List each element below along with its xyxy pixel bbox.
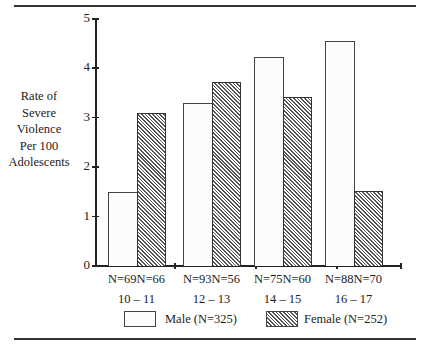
y-label-line: Severe [4, 105, 74, 122]
y-tick [92, 67, 99, 69]
legend-male-swatch [124, 311, 156, 327]
y-axis [95, 18, 97, 267]
y-label-line: Per 100 [4, 138, 74, 155]
top-rule [14, 5, 416, 7]
y-axis-label: Rate of Severe Violence Per 100 Adolesce… [4, 88, 74, 171]
y-tick [92, 265, 99, 267]
male-bar [108, 192, 138, 266]
category-label: 10 – 11 [107, 292, 167, 307]
legend-female-swatch [266, 311, 298, 327]
category-label: 14 – 15 [253, 292, 313, 307]
y-tick-label: 2 [76, 158, 90, 174]
x-tick [174, 263, 176, 269]
male-bar [254, 57, 284, 266]
y-tick-label: 1 [76, 208, 90, 224]
y-tick-label: 0 [76, 257, 90, 273]
sample-size-label: N=60 [277, 272, 317, 287]
female-bar [137, 113, 167, 266]
y-label-line: Adolescents [4, 154, 74, 171]
y-tick-label: 3 [76, 109, 90, 125]
female-bar [212, 82, 242, 266]
y-tick [92, 117, 99, 119]
y-tick [92, 18, 99, 20]
y-tick [92, 166, 99, 168]
male-bar [325, 41, 355, 266]
legend-male-label: Male (N=325) [165, 312, 237, 327]
male-bar [183, 103, 213, 266]
y-tick [92, 216, 99, 218]
category-label: 12 – 13 [182, 292, 242, 307]
category-label: 16 – 17 [324, 292, 384, 307]
y-label-line: Rate of [4, 88, 74, 105]
sample-size-label: N=66 [131, 272, 171, 287]
sample-size-label: N=70 [348, 272, 388, 287]
y-label-line: Violence [4, 121, 74, 138]
x-tick [400, 263, 402, 269]
female-bar [354, 191, 384, 266]
female-bar [283, 97, 313, 266]
legend-female-label: Female (N=252) [304, 312, 387, 327]
bottom-rule [14, 338, 416, 340]
y-tick-label: 4 [76, 59, 90, 75]
y-tick-label: 5 [76, 10, 90, 26]
sample-size-label: N=56 [206, 272, 246, 287]
